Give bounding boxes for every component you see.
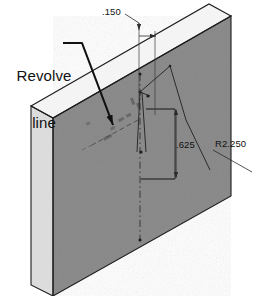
dimension-label-150: .150 <box>102 7 121 17</box>
revolve-line-callout-line2: line <box>2 115 86 131</box>
revolve-line-callout-label: Revolve line <box>2 36 86 162</box>
dimension-label-625: .625 <box>176 140 195 150</box>
revolve-line-callout-line1: Revolve <box>2 68 86 84</box>
drawing-canvas: Revolve line .150 .625 R2.250 <box>0 0 256 296</box>
leader-arrow-icon <box>125 14 139 30</box>
dimension-label-r2250: R2.250 <box>215 139 246 149</box>
